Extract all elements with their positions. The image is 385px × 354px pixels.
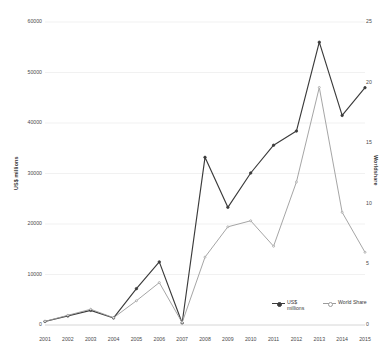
data-point — [273, 245, 275, 247]
data-point — [90, 308, 92, 310]
data-point — [44, 320, 46, 322]
data-point — [135, 300, 137, 302]
legend-item[interactable]: World Share — [323, 299, 367, 307]
legend-swatch-icon — [323, 300, 336, 307]
data-point — [181, 322, 183, 324]
data-point — [295, 181, 297, 183]
data-point — [295, 130, 298, 133]
data-point — [204, 156, 207, 159]
data-point — [135, 287, 138, 290]
data-point — [318, 86, 320, 88]
data-point — [250, 220, 252, 222]
data-point — [318, 41, 321, 44]
chart-legend: US$ millionsWorld Share — [272, 299, 367, 311]
chart-container: US$ millions Worldshare 6000050000400003… — [0, 0, 385, 354]
data-point — [341, 114, 344, 117]
data-point — [204, 256, 206, 258]
data-point — [158, 261, 161, 264]
data-point — [341, 211, 343, 213]
legend-label: US$ millions — [287, 299, 313, 311]
data-point — [227, 206, 230, 209]
data-point — [364, 251, 366, 253]
data-point — [272, 144, 275, 147]
legend-item[interactable]: US$ millions — [272, 299, 313, 311]
data-point — [249, 172, 252, 175]
data-point — [227, 226, 229, 228]
legend-swatch-icon — [272, 300, 285, 307]
data-point — [113, 317, 115, 319]
legend-label: World Share — [338, 299, 367, 305]
data-point — [67, 314, 69, 316]
series-line-1 — [45, 42, 365, 323]
data-point — [158, 282, 160, 284]
data-point — [364, 86, 367, 89]
